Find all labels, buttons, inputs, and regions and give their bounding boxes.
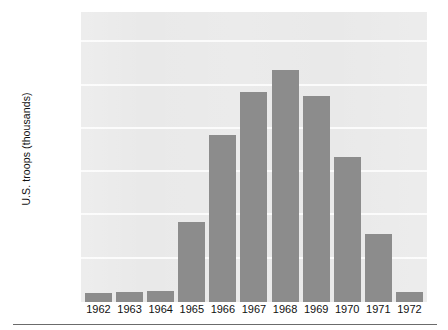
bar-1963: [116, 292, 143, 302]
bar-slot: [147, 12, 174, 302]
x-tick-label: 1970: [334, 303, 361, 319]
bar-slot: [303, 12, 330, 302]
y-axis-title: U.S. troops (thousands): [20, 59, 32, 239]
bottom-rule: [13, 324, 437, 325]
x-tick-label: 1971: [365, 303, 392, 319]
bar-slot: [178, 12, 205, 302]
bar-slot: [396, 12, 423, 302]
x-tick-label: 1965: [178, 303, 205, 319]
bar-1971: [365, 234, 392, 302]
bar-1966: [209, 135, 236, 302]
bars-group: [81, 12, 427, 302]
bar-1968: [272, 70, 299, 302]
bar-1972: [396, 292, 423, 302]
bar-slot: [209, 12, 236, 302]
bar-slot: [116, 12, 143, 302]
x-tick-label: 1963: [116, 303, 143, 319]
bar-1970: [334, 157, 361, 302]
x-tick-label: 1962: [85, 303, 112, 319]
x-tick-label: 1964: [147, 303, 174, 319]
x-tick-label: 1969: [303, 303, 330, 319]
x-tick-label: 1967: [240, 303, 267, 319]
bar-1964: [147, 291, 174, 302]
x-tick-label: 1972: [396, 303, 423, 319]
x-axis-ticks: 1962196319641965196619671968196919701971…: [81, 303, 427, 319]
bar-slot: [240, 12, 267, 302]
plot-area: [81, 12, 427, 302]
bar-slot: [85, 12, 112, 302]
bar-1965: [178, 222, 205, 302]
bar-slot: [334, 12, 361, 302]
bar-1967: [240, 92, 267, 302]
x-tick-label: 1968: [272, 303, 299, 319]
x-tick-label: 1966: [209, 303, 236, 319]
bar-slot: [365, 12, 392, 302]
bar-1969: [303, 96, 330, 302]
bar-chart-figure: U.S. troops (thousands) 1002003004005006…: [0, 0, 448, 330]
bar-1962: [85, 293, 112, 302]
bar-slot: [272, 12, 299, 302]
